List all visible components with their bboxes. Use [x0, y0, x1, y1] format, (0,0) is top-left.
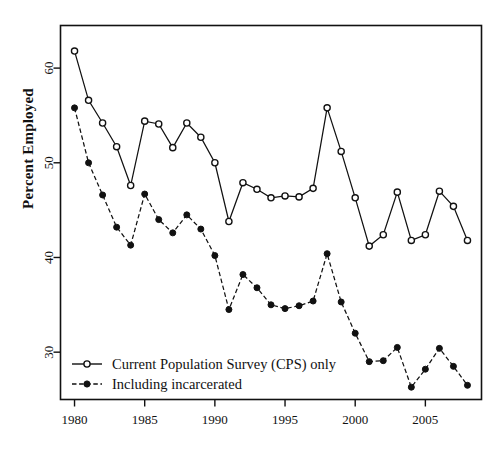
- data-point: [212, 160, 218, 166]
- x-tick-label: 1980: [62, 412, 88, 427]
- data-point: [352, 330, 358, 336]
- y-tick-label: 40: [41, 251, 56, 264]
- data-point: [464, 237, 470, 243]
- data-point: [380, 358, 386, 364]
- data-point: [226, 218, 232, 224]
- data-series-group: [71, 48, 470, 390]
- data-point: [156, 121, 162, 127]
- data-point: [366, 359, 372, 365]
- x-axis-ticks: 198019851990199520002005: [62, 400, 439, 427]
- chart-legend: Current Population Survey (CPS) onlyIncl…: [72, 356, 337, 392]
- data-point: [71, 48, 77, 54]
- data-point: [408, 384, 414, 390]
- data-point: [226, 307, 232, 313]
- data-point: [170, 145, 176, 151]
- data-point: [212, 253, 218, 259]
- data-point: [142, 191, 148, 197]
- data-point: [254, 186, 260, 192]
- y-axis-ticks: 30405060: [41, 62, 61, 359]
- data-point: [184, 120, 190, 126]
- plot-frame: [61, 26, 482, 400]
- data-point: [128, 182, 134, 188]
- data-point: [394, 344, 400, 350]
- data-point: [464, 382, 470, 388]
- data-point: [282, 193, 288, 199]
- y-tick-label: 30: [41, 346, 56, 359]
- data-point: [114, 144, 120, 150]
- data-point: [324, 251, 330, 257]
- data-point: [142, 118, 148, 124]
- data-point: [114, 224, 120, 230]
- legend-marker-open-circle: [84, 361, 90, 367]
- series-line-1: [75, 51, 468, 246]
- data-point: [184, 212, 190, 218]
- data-point: [282, 306, 288, 312]
- data-point: [296, 303, 302, 309]
- data-point: [240, 180, 246, 186]
- x-tick-label: 1990: [202, 412, 228, 427]
- data-point: [268, 195, 274, 201]
- data-point: [450, 363, 456, 369]
- data-point: [422, 232, 428, 238]
- x-tick-label: 1985: [132, 412, 158, 427]
- series-line-2: [75, 108, 468, 387]
- data-point: [310, 185, 316, 191]
- data-point: [268, 302, 274, 308]
- data-point: [380, 232, 386, 238]
- y-tick-label: 50: [41, 156, 56, 169]
- data-point: [198, 226, 204, 232]
- data-point: [85, 97, 91, 103]
- data-point: [338, 148, 344, 154]
- data-point: [100, 120, 106, 126]
- data-point: [394, 189, 400, 195]
- data-point: [338, 299, 344, 305]
- data-point: [254, 285, 260, 291]
- legend-label: Including incarcerated: [112, 376, 243, 392]
- data-point: [86, 160, 92, 166]
- data-point: [240, 272, 246, 278]
- data-point: [310, 298, 316, 304]
- data-point: [170, 230, 176, 236]
- data-point: [450, 203, 456, 209]
- legend-label: Current Population Survey (CPS) only: [112, 356, 337, 373]
- data-point: [72, 105, 78, 111]
- data-point: [100, 192, 106, 198]
- chart-plot-area: 30405060 198019851990199520002005 Curren…: [0, 0, 498, 450]
- x-tick-label: 1995: [272, 412, 298, 427]
- legend-marker-filled-circle: [84, 381, 90, 387]
- x-tick-label: 2005: [412, 412, 438, 427]
- chart-figure: Percent Employed 30405060 19801985199019…: [0, 0, 498, 450]
- data-point: [352, 195, 358, 201]
- data-point: [436, 345, 442, 351]
- data-point: [198, 134, 204, 140]
- y-tick-label: 60: [41, 62, 56, 75]
- data-point: [296, 194, 302, 200]
- data-point: [366, 243, 372, 249]
- data-point: [422, 366, 428, 372]
- data-point: [324, 105, 330, 111]
- data-point: [128, 242, 134, 248]
- x-tick-label: 2000: [342, 412, 368, 427]
- data-point: [436, 188, 442, 194]
- data-point: [156, 217, 162, 223]
- data-point: [408, 237, 414, 243]
